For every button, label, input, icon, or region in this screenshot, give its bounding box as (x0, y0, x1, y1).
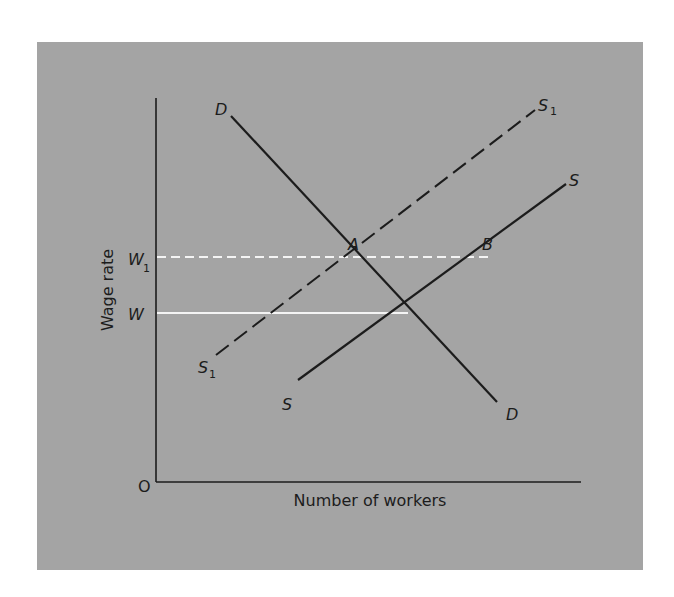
supply-label-top: S (569, 171, 579, 190)
w1-tick-subscript: 1 (143, 262, 150, 275)
supply-s1-label-bottom: S (198, 358, 208, 377)
x-axis-label: Number of workers (294, 491, 447, 510)
demand-label-bottom: D (506, 405, 518, 424)
supply-s1-subscript-top: 1 (550, 105, 557, 118)
demand-label-top: D (215, 100, 227, 119)
w-tick-label: W (128, 305, 145, 324)
origin-label: O (138, 477, 151, 496)
labor-market-chart: Wage rate Number of workers O W W 1 D D … (0, 0, 674, 597)
supply-label-bottom: S (282, 395, 292, 414)
supply-s1-subscript-bottom: 1 (209, 368, 216, 381)
demand-curve (231, 116, 497, 402)
point-a-label: A (347, 235, 359, 254)
supply-curve (298, 184, 566, 380)
supply-s1-label-top: S (538, 96, 548, 115)
point-b-label: B (482, 235, 493, 254)
y-axis-label: Wage rate (98, 249, 117, 331)
supply-curve-s1 (216, 110, 535, 355)
